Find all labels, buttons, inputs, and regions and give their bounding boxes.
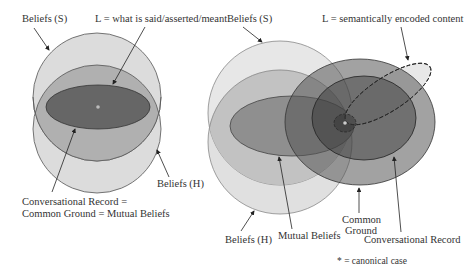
label-conversational-record: Conversational Record [364,234,461,246]
canonical-point [343,121,347,125]
label-beliefs-s-left: Beliefs (S) [22,13,67,25]
label-l-definition-right: L = semantically encoded content [322,13,463,25]
label-record-line2: Common Ground = Mutual Beliefs [22,208,170,220]
label-beliefs-h-left: Beliefs (H) [157,178,204,190]
label-mutual-beliefs: Mutual Beliefs [278,230,341,242]
legend-canonical-case: * = canonical case [337,255,407,267]
canonical-point [96,105,100,109]
label-l-definition-left: L = what is said/asserted/meant [95,13,227,25]
common-ground-ellipse [312,76,416,160]
label-beliefs-h-right: Beliefs (H) [225,234,272,246]
left-diagram [33,27,169,193]
label-record-line1: Conversational Record = [22,196,127,208]
label-beliefs-s-right: Beliefs (S) [227,13,272,25]
diagram-canvas [0,0,470,267]
right-diagram [208,27,439,232]
